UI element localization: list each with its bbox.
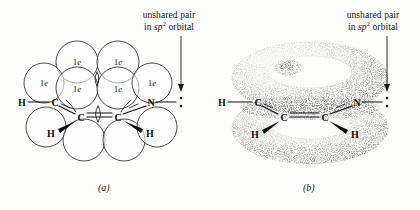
- atom-label-h-bottom-left-b: H: [251, 129, 259, 140]
- orbital-label-5: 1e: [114, 84, 123, 94]
- figure-canvas: unshared pair in sp2 orbital unshared pa…: [0, 0, 420, 210]
- atom-label-c1-a: C: [51, 97, 58, 108]
- lone-pair-dot-lower-b: [386, 105, 389, 108]
- panel-b-group: H C C C N H H: [218, 36, 390, 164]
- orbital-label-6: 1e: [148, 78, 157, 88]
- atom-label-h-left-a: H: [18, 97, 26, 108]
- annotation-arrow-head-left: [178, 84, 184, 92]
- orbital-circle-bottom-far-left: [26, 107, 66, 147]
- atom-label-h-bottom-right-b: H: [351, 129, 359, 140]
- atom-label-n-b: N: [353, 97, 361, 108]
- overlap-lens-lower-mirror: [96, 106, 99, 122]
- orbital-label-1: 1e: [73, 57, 82, 67]
- overlap-lens-lower: [98, 106, 101, 122]
- atom-label-c2-a: C: [77, 112, 84, 123]
- orbital-label-3: 1e: [40, 78, 49, 88]
- orbital-label-2: 1e: [114, 57, 123, 67]
- panel-a-group: 1e 1e 1e 1e 1e 1e H C C C N H: [18, 36, 184, 161]
- atom-label-h-bottom-right-a: H: [146, 128, 154, 139]
- atom-label-c3-b: C: [321, 112, 328, 123]
- lone-pair-dot-lower-a: [180, 105, 183, 108]
- lone-pair-dot-upper-a: [180, 97, 183, 100]
- atom-label-h-left-b: H: [218, 97, 226, 108]
- atom-label-c3-a: C: [114, 112, 121, 123]
- atom-label-h-bottom-left-a: H: [47, 128, 55, 139]
- lone-pair-dot-upper-b: [386, 97, 389, 100]
- atom-label-c2-b: C: [280, 112, 287, 123]
- atom-label-c1-b: C: [254, 97, 261, 108]
- orbital-circle-bottom-far-right: [137, 107, 177, 147]
- orbital-label-4: 1e: [73, 84, 82, 94]
- atom-label-n-a: N: [147, 97, 155, 108]
